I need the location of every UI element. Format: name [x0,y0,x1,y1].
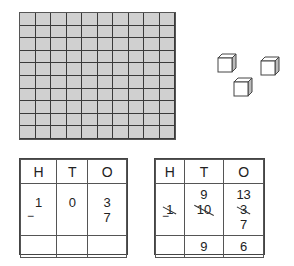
hundred-block-cell [144,89,160,102]
hundred-block [19,12,176,140]
subtrahend-digit: 7 [224,217,263,232]
minus-sign: − [162,209,169,223]
hundred-block-cell [67,101,83,114]
hundred-block-cell [144,51,160,64]
hundred-block-cell [51,13,67,26]
hundred-block-cell [113,51,129,64]
hundred-block-cell [160,13,176,26]
hundred-block-cell [20,51,36,64]
hundred-block-cell [67,114,83,127]
hundred-block-cell [144,38,160,51]
hundred-block-cell [82,114,98,127]
hundred-block-cell [20,114,36,127]
hundred-block-cell [82,101,98,114]
header-tens: T [184,160,224,184]
hundred-block-cell [20,63,36,76]
hundred-block-cell [160,26,176,39]
hundreds-cell: 1 − [156,184,185,236]
hundred-block-cell [113,26,129,39]
header-hundreds: H [21,160,57,184]
hundred-block-cell [36,114,52,127]
hundred-block-cell [20,13,36,26]
hundred-block-cell [82,63,98,76]
hundred-block-cell [144,101,160,114]
hundred-block-cell [144,13,160,26]
hundred-block-cell [67,76,83,89]
hundred-block-cell [129,13,145,26]
answer-tens: 9 [184,236,224,258]
hundred-block-cell [51,101,67,114]
hundred-block-cell [129,63,145,76]
hundred-block-cell [67,26,83,39]
hundred-block-cell [98,63,114,76]
regroup-digit: 13 [224,187,263,202]
hundred-block-cell [129,26,145,39]
header-ones: O [224,160,264,184]
answer-hundreds [21,236,57,258]
hundred-block-cell [82,76,98,89]
hundred-block-cell [51,126,67,139]
regroup-digit: 9 [185,187,224,202]
hundred-block-cell [20,26,36,39]
hundred-block-cell [67,126,83,139]
hundred-block-cell [67,63,83,76]
minus-sign: − [27,209,34,223]
hundred-block-cell [51,76,67,89]
minuend-digit: 1 [21,195,56,210]
answer-tens [57,236,88,258]
hundred-block-cell [51,26,67,39]
hundred-block-cell [144,26,160,39]
hundred-block-cell [160,126,176,139]
hundred-block-cell [113,38,129,51]
unit-cube-icon [260,56,280,76]
hundred-block-cell [129,76,145,89]
tens-cell: 9 10 [184,184,224,236]
hundred-block-cell [129,101,145,114]
hundred-block-cell [160,63,176,76]
minuend-digit: 3 [88,195,126,210]
hundred-block-cell [113,126,129,139]
hundred-block-cell [113,114,129,127]
hundred-block-cell [20,101,36,114]
hundred-block-cell [20,76,36,89]
hundred-block-cell [98,13,114,26]
unit-cube-icon [233,77,253,97]
hundred-block-cell [36,38,52,51]
tens-cell: 0 [57,184,88,236]
place-value-table-left: H T O 1 − 0 3 7 [19,158,128,255]
hundred-block-cell [144,114,160,127]
hundred-block-cell [129,38,145,51]
hundred-block-cell [98,114,114,127]
hundred-block-cell [98,89,114,102]
place-value-table-right: H T O 1 − 9 10 13 3 7 9 [154,158,265,255]
hundred-block-cell [160,101,176,114]
hundred-block-cell [36,63,52,76]
hundred-block-cell [129,51,145,64]
hundred-block-cell [67,13,83,26]
hundred-block-cell [51,114,67,127]
hundred-block-cell [160,51,176,64]
ones-cell: 13 3 7 [224,184,264,236]
hundred-block-cell [36,89,52,102]
hundred-block-cell [98,101,114,114]
hundred-block-cell [160,89,176,102]
hundred-block-cell [36,26,52,39]
hundred-block-cell [20,89,36,102]
hundred-block-cell [113,76,129,89]
hundreds-cell: 1 − [21,184,57,236]
header-tens: T [57,160,88,184]
subtrahend-digit: 7 [88,210,126,225]
hundred-block-cell [82,126,98,139]
hundred-block-cell [113,89,129,102]
header-ones: O [88,160,127,184]
hundred-block-cell [36,76,52,89]
hundred-block-cell [82,13,98,26]
hundred-block-cell [113,13,129,26]
hundred-block-cell [98,76,114,89]
hundred-block-cell [98,38,114,51]
hundred-block-cell [36,13,52,26]
hundred-block-cell [51,51,67,64]
hundred-block-cell [67,89,83,102]
hundred-block-cell [98,51,114,64]
answer-ones: 6 [224,236,264,258]
